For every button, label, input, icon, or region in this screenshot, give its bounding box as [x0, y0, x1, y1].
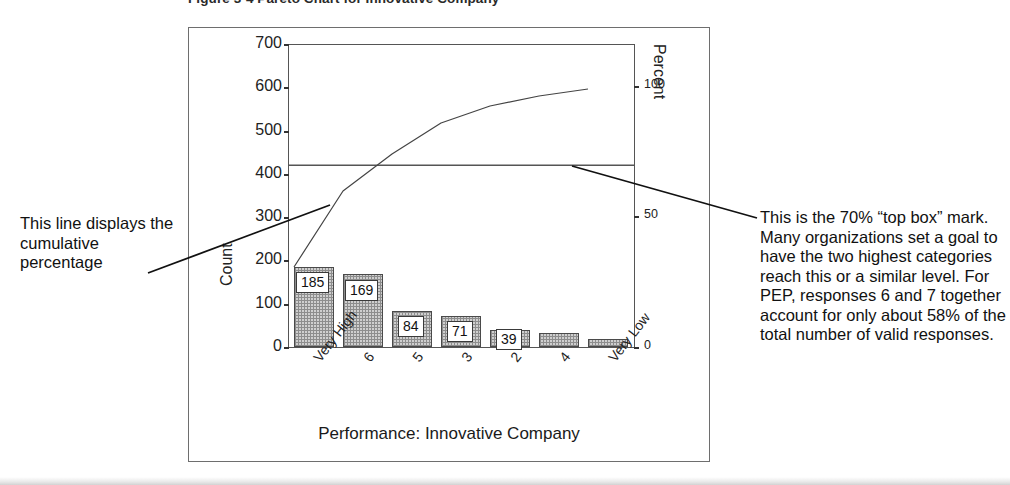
- y-label-500: 500: [255, 121, 282, 139]
- y-axis-title-percent: Percent: [650, 44, 668, 99]
- y-tick-300: [284, 217, 289, 219]
- plot-area: 700 600 500 400 300 200 100 0 100 50 0 1…: [288, 44, 634, 347]
- percent-label-50: 50: [644, 207, 658, 221]
- figure-root: Figure 3-4 Pareto Chart for Innovative C…: [0, 0, 1010, 485]
- bar-4[interactable]: [539, 333, 579, 347]
- bar-value-5: 84: [398, 316, 424, 337]
- y-tick-600: [284, 87, 289, 89]
- y-tick-500: [284, 131, 289, 133]
- plot-top-border: [288, 44, 634, 45]
- y-tick-200: [284, 260, 289, 262]
- y-axis-count: [288, 44, 289, 347]
- y-label-600: 600: [255, 77, 282, 95]
- y-label-100: 100: [255, 294, 282, 312]
- y-label-200: 200: [255, 250, 282, 268]
- y-label-700: 700: [255, 34, 282, 52]
- page-bottom-edge: [0, 477, 1010, 485]
- y-axis-title-count: Count: [218, 243, 236, 286]
- bar-value-very-high: 185: [296, 272, 329, 293]
- y-label-300: 300: [255, 207, 282, 225]
- percent-label-0: 0: [644, 338, 651, 352]
- y-tick-700: [284, 44, 289, 46]
- y-tick-400: [284, 174, 289, 176]
- x-axis: [288, 347, 634, 348]
- x-axis-caption: Performance: Innovative Company: [188, 424, 710, 444]
- annotation-top-box-mark: This is the 70% “top box” mark. Many org…: [760, 208, 1008, 345]
- percent-tick-100: [634, 86, 639, 88]
- bar-value-6: 169: [345, 280, 378, 301]
- annotation-cumulative-line: This line displays the cumulative percen…: [20, 214, 180, 273]
- y-label-0: 0: [273, 337, 282, 355]
- y-tick-0: [284, 347, 289, 349]
- bar-value-3: 71: [447, 321, 473, 342]
- percent-tick-0: [634, 347, 639, 349]
- y-axis-percent: [634, 44, 635, 347]
- figure-caption: Figure 3-4 Pareto Chart for Innovative C…: [188, 0, 688, 6]
- percent-tick-50: [634, 216, 639, 218]
- y-label-400: 400: [255, 164, 282, 182]
- y-tick-100: [284, 304, 289, 306]
- bar-value-2: 39: [496, 329, 522, 350]
